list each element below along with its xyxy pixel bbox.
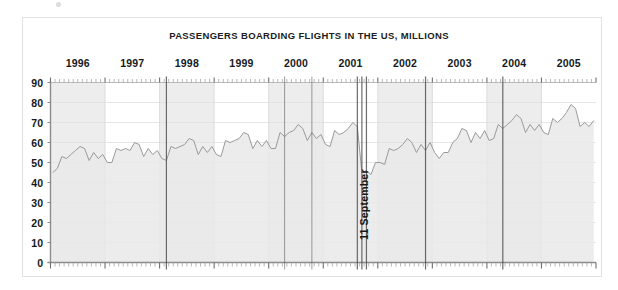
annotation-11-september: 11 September bbox=[358, 169, 370, 240]
y-axis-label-40: 40 bbox=[21, 177, 43, 189]
x-axis-label-2004: 2004 bbox=[502, 57, 526, 69]
x-axis-label-1999: 1999 bbox=[229, 57, 253, 69]
plot-area bbox=[0, 0, 618, 290]
y-axis-label-0: 0 bbox=[21, 257, 43, 269]
y-axis-label-90: 90 bbox=[21, 77, 43, 89]
y-axis-label-60: 60 bbox=[21, 137, 43, 149]
x-axis-label-1996: 1996 bbox=[66, 57, 90, 69]
x-axis-label-2002: 2002 bbox=[393, 57, 417, 69]
y-axis-label-10: 10 bbox=[21, 237, 43, 249]
figure-container: PASSENGERS BOARDING FLIGHTS IN THE US, M… bbox=[0, 0, 618, 290]
y-axis-label-70: 70 bbox=[21, 117, 43, 129]
y-axis-label-80: 80 bbox=[21, 97, 43, 109]
x-axis-label-2003: 2003 bbox=[448, 57, 472, 69]
y-axis-label-50: 50 bbox=[21, 157, 43, 169]
y-axis-label-30: 30 bbox=[21, 197, 43, 209]
x-axis-label-2000: 2000 bbox=[284, 57, 308, 69]
x-axis-label-1997: 1997 bbox=[120, 57, 144, 69]
chart-svg bbox=[0, 0, 618, 290]
y-axis-label-20: 20 bbox=[21, 217, 43, 229]
x-axis-label-1998: 1998 bbox=[175, 57, 199, 69]
x-axis-label-2005: 2005 bbox=[557, 57, 581, 69]
x-axis-label-2001: 2001 bbox=[338, 57, 362, 69]
